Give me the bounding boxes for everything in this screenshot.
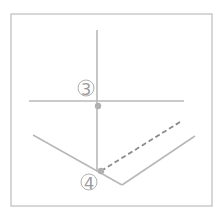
label-3: 3	[78, 80, 94, 99]
lower-point-dot	[98, 168, 104, 174]
label-4: 4	[81, 174, 97, 193]
left-diagonal-line	[33, 135, 122, 185]
diagram-canvas: 3 4	[0, 0, 217, 213]
diagram-frame	[11, 14, 212, 206]
upper-point-dot	[95, 103, 101, 109]
dashed-line	[101, 122, 180, 171]
label-4-text: 4	[84, 174, 94, 193]
right-diagonal-line	[122, 136, 195, 185]
label-3-text: 3	[81, 80, 91, 99]
